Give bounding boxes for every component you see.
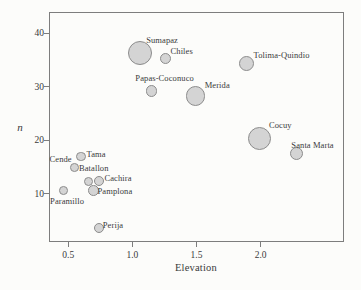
bubble-merida bbox=[186, 86, 205, 105]
x-tick-label-2.0: 2.0 bbox=[249, 249, 273, 261]
point-label-santa-marta: Santa Marta bbox=[291, 140, 333, 149]
bubble-papas-coconuco bbox=[146, 85, 157, 96]
y-tick-label-20: 20 bbox=[24, 134, 44, 146]
point-label-merida: Merida bbox=[205, 80, 230, 89]
x-tick-mark-1.0 bbox=[132, 242, 133, 247]
point-label-paramillo: Paramillo bbox=[50, 197, 84, 206]
bubble-cocuy bbox=[248, 127, 271, 150]
bubble-sumapaz bbox=[128, 41, 152, 65]
x-tick-label-0.5: 0.5 bbox=[56, 249, 80, 261]
point-label-batallon: Batallon bbox=[79, 163, 109, 172]
plot-area bbox=[49, 12, 344, 242]
point-label-cachira: Cachira bbox=[104, 174, 131, 183]
point-label-papas-coconuco: Papas-Coconuco bbox=[135, 74, 194, 83]
y-tick-label-40: 40 bbox=[24, 27, 44, 39]
y-tick-mark-10 bbox=[44, 193, 49, 194]
y-tick-mark-20 bbox=[44, 140, 49, 141]
y-axis-label: n bbox=[13, 121, 27, 133]
x-tick-label-1.5: 1.5 bbox=[185, 249, 209, 261]
point-label-chiles: Chiles bbox=[171, 46, 193, 55]
point-label-cende: Cende bbox=[50, 155, 72, 164]
bubble-tama bbox=[76, 152, 85, 161]
bubble-paramillo bbox=[59, 186, 68, 195]
x-tick-mark-0.5 bbox=[68, 242, 69, 247]
point-label-pamplona: Pamplona bbox=[97, 186, 132, 195]
y-tick-label-30: 30 bbox=[24, 81, 44, 93]
x-tick-mark-1.5 bbox=[196, 242, 197, 247]
bubble-tolima-quindio bbox=[239, 56, 254, 71]
point-label-cocuy: Cocuy bbox=[269, 121, 292, 130]
bubble-cende bbox=[70, 163, 79, 172]
bubble-chart-figure: n Elevation 10203040 0.51.01.52.0 Sumapa… bbox=[0, 0, 361, 290]
x-tick-mark-2.0 bbox=[260, 242, 261, 247]
y-tick-label-10: 10 bbox=[24, 188, 44, 200]
x-tick-label-1.0: 1.0 bbox=[120, 249, 144, 261]
y-tick-mark-40 bbox=[44, 33, 49, 34]
point-label-perija: Perija bbox=[103, 221, 123, 230]
y-tick-mark-30 bbox=[44, 86, 49, 87]
point-label-sumapaz: Sumapaz bbox=[146, 35, 178, 44]
point-label-tolima-quindio: Tolima-Quindio bbox=[253, 51, 309, 60]
x-axis-label: Elevation bbox=[156, 262, 236, 273]
point-label-tama: Tama bbox=[86, 150, 105, 159]
